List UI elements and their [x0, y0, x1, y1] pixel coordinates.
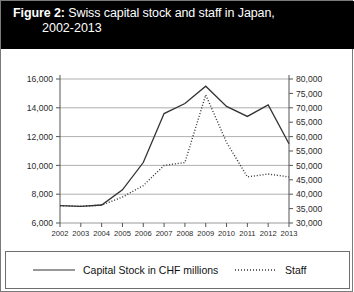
svg-text:30,000: 30,000: [296, 218, 323, 228]
legend-item-capital-stock: Capital Stock in CHF millions: [32, 263, 218, 277]
gridlines-group: [60, 79, 289, 223]
legend-label-capital-stock: Capital Stock in CHF millions: [83, 264, 218, 276]
svg-text:2003: 2003: [72, 229, 89, 238]
svg-text:2013: 2013: [281, 229, 298, 238]
svg-text:2006: 2006: [135, 229, 152, 238]
svg-text:2008: 2008: [176, 229, 193, 238]
solid-line-swatch-icon: [32, 267, 76, 273]
svg-text:55,000: 55,000: [296, 146, 323, 156]
svg-text:2005: 2005: [114, 229, 131, 238]
svg-text:65,000: 65,000: [296, 117, 323, 127]
chart-legend: Capital Stock in CHF millions Staff: [5, 251, 350, 289]
svg-text:35,000: 35,000: [296, 204, 323, 214]
line-chart-svg: 6,0008,00010,00012,00014,00016,000 30,00…: [5, 53, 350, 248]
svg-text:60,000: 60,000: [296, 132, 323, 142]
svg-text:40,000: 40,000: [296, 189, 323, 199]
legend-label-staff: Staff: [285, 264, 306, 276]
svg-text:45,000: 45,000: [296, 175, 323, 185]
svg-text:2002: 2002: [52, 229, 69, 238]
svg-text:2011: 2011: [239, 229, 255, 238]
svg-text:2007: 2007: [156, 229, 173, 238]
figure-title-banner: Figure 2: Swiss capital stock and staff …: [1, 1, 354, 49]
right-axis-group: 30,00035,00040,00045,00050,00055,00060,0…: [289, 74, 323, 228]
svg-text:2012: 2012: [260, 229, 277, 238]
svg-text:75,000: 75,000: [296, 89, 323, 99]
svg-text:2010: 2010: [218, 229, 235, 238]
left-axis-group: 6,0008,00010,00012,00014,00016,000: [27, 74, 60, 228]
svg-text:80,000: 80,000: [296, 74, 323, 84]
figure-number-label: Figure 2:: [13, 6, 65, 20]
figure-title-line-2: 2002-2013: [13, 21, 344, 36]
series-line-capital-stock-in-chf-millions: [60, 86, 289, 206]
svg-text:8,000: 8,000: [31, 189, 53, 199]
dotted-line-swatch-icon: [234, 267, 278, 273]
chart-plot-panel: 6,0008,00010,00012,00014,00016,000 30,00…: [5, 53, 350, 248]
series-line-staff: [60, 95, 289, 206]
legend-item-staff: Staff: [234, 263, 306, 277]
x-axis-group: 2002200320042005200620072008200920102011…: [52, 223, 298, 238]
svg-text:2009: 2009: [197, 229, 214, 238]
svg-text:6,000: 6,000: [31, 218, 53, 228]
svg-text:50,000: 50,000: [296, 161, 323, 171]
svg-text:14,000: 14,000: [27, 103, 54, 113]
svg-text:10,000: 10,000: [27, 161, 54, 171]
svg-text:2004: 2004: [93, 229, 110, 238]
svg-text:12,000: 12,000: [27, 132, 54, 142]
figure-title-line-1: Figure 2: Swiss capital stock and staff …: [13, 6, 344, 21]
series-group: [60, 86, 289, 206]
svg-text:16,000: 16,000: [27, 74, 54, 84]
svg-text:70,000: 70,000: [296, 103, 323, 113]
figure-title-text: Swiss capital stock and staff in Japan,: [68, 6, 274, 20]
